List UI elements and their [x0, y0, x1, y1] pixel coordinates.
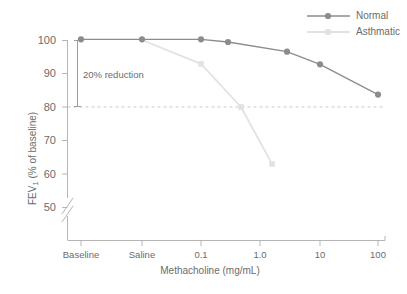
- series-markers-normal: [78, 36, 381, 97]
- y-axis-title-rest: (% of baseline): [27, 112, 38, 181]
- legend-swatch-normal: [307, 13, 350, 19]
- legend-swatch-asthmatic: [307, 29, 350, 35]
- y-axis-title: FEV1 (% of baseline): [28, 112, 38, 205]
- x-axis-title: Methacholine (mg/mL): [80, 266, 340, 276]
- x-axis-ticks: [81, 241, 378, 247]
- series-line-normal: [81, 39, 378, 94]
- series-line-asthmatic: [142, 40, 272, 164]
- y-axis-title-main: FEV: [27, 186, 38, 205]
- reduction-bracket: [74, 40, 81, 107]
- chart-container: 100 90 80 70 60 50 Baseline Saline 0.1 1…: [0, 0, 407, 294]
- legend-label-normal: Normal: [356, 11, 388, 21]
- reduction-annotation-label: 20% reduction: [83, 70, 144, 80]
- y-tick-label-100: 100: [26, 35, 56, 46]
- series-markers-asthmatic: [198, 61, 275, 167]
- y-axis-ticks: [62, 41, 68, 208]
- x-tick-label-baseline: Baseline: [46, 250, 116, 260]
- y-tick-label-90: 90: [26, 68, 56, 79]
- legend-label-asthmatic: Asthmatic: [356, 27, 400, 37]
- y-tick-label-80: 80: [26, 102, 56, 113]
- x-tick-label-100: 100: [343, 250, 407, 260]
- y-axis-title-subscript: 1: [31, 181, 40, 185]
